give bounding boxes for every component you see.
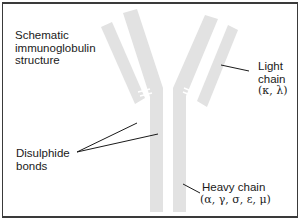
title-line-1: Schematic <box>15 29 96 42</box>
light-chain-label-line1: Light <box>258 60 287 73</box>
light-chain-leader <box>221 65 249 71</box>
disulphide-leader-upper <box>77 123 137 152</box>
light-chain-types: (κ, λ) <box>258 85 287 98</box>
title-line-2: immunoglobulin <box>15 42 96 55</box>
diagram-title: Schematic immunoglobulin structure <box>15 29 96 67</box>
heavy-chain-label: Heavy chain (α, γ, σ, ε, μ) <box>178 181 271 206</box>
title-line-3: structure <box>15 54 96 67</box>
disulphide-label-line2: bonds <box>16 160 70 173</box>
light-chain-label: Light chain (κ, λ) <box>258 60 287 98</box>
disulphide-leader-lower <box>77 134 158 152</box>
disulphide-bonds-label: Disulphide bonds <box>16 147 70 172</box>
heavy-chain-types: (α, γ, σ, ε, μ) <box>200 194 271 207</box>
left-heavy-chain <box>123 9 163 212</box>
disulphide-label-line1: Disulphide <box>16 147 70 160</box>
heavy-chain-label-line1: Heavy chain <box>202 181 271 194</box>
